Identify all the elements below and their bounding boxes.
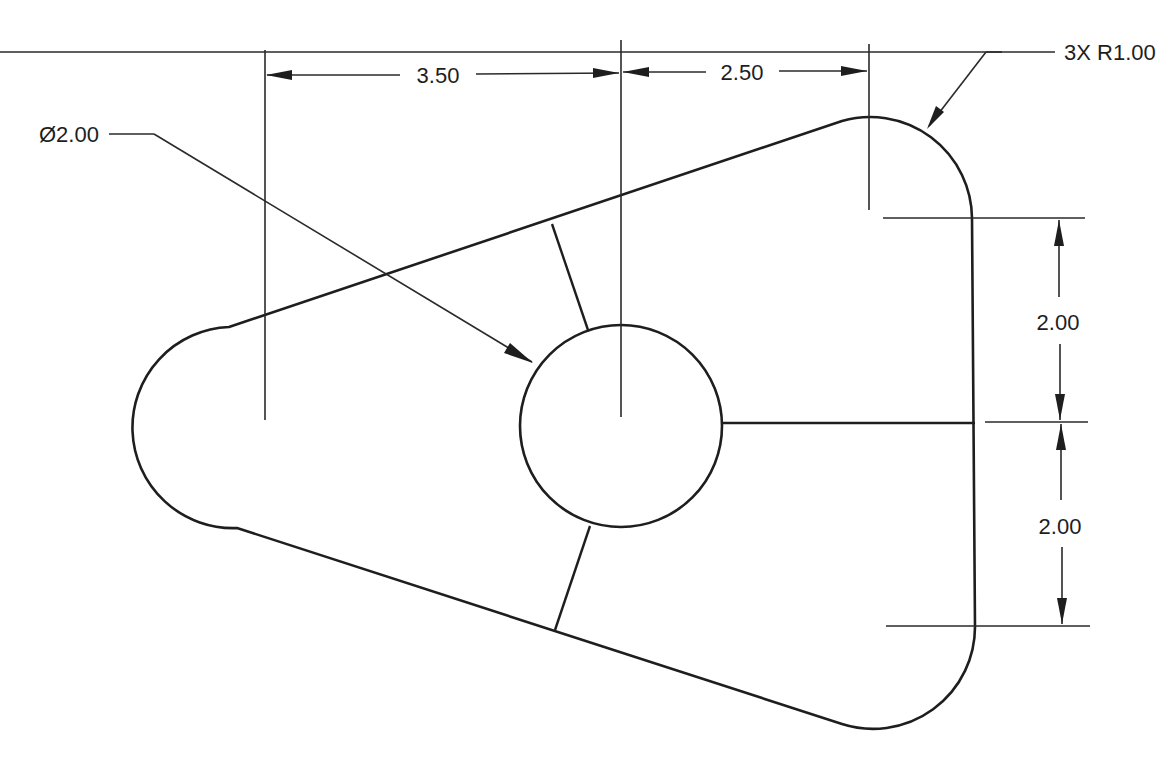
leader-arrowhead <box>504 343 533 363</box>
dimension-label-2-00-lower: 2.00 <box>1039 514 1082 539</box>
leader-hole-diameter: Ø2.00 <box>39 122 533 363</box>
arrowhead-up <box>1056 424 1066 450</box>
arrowhead-left <box>623 67 649 77</box>
arrowhead-left <box>266 70 292 80</box>
dimension-label-3-50: 3.50 <box>417 63 460 88</box>
engineering-drawing: 3.50 2.50 2.00 2.00 Ø2.00 3X R <box>0 0 1172 771</box>
lower-left-web <box>555 526 590 630</box>
dimension-3-50: 3.50 <box>266 63 619 88</box>
arrowhead-up <box>1054 220 1064 246</box>
dimension-2-50: 2.50 <box>623 60 867 85</box>
dimension-2-00-upper: 2.00 <box>1037 220 1080 420</box>
dimension-label-2-50: 2.50 <box>721 60 764 85</box>
arrowhead-right <box>593 68 619 78</box>
dimension-2-00-lower: 2.00 <box>1039 424 1082 624</box>
callout-hole-diameter: Ø2.00 <box>39 122 99 147</box>
arrowhead-right <box>841 66 867 76</box>
dimension-label-2-00-upper: 2.00 <box>1037 310 1080 335</box>
leader-corner-radius: 3X R1.00 <box>0 40 1156 129</box>
callout-corner-radius: 3X R1.00 <box>1064 40 1156 65</box>
arrowhead-down <box>1055 394 1065 420</box>
arrowhead-down <box>1057 598 1067 624</box>
upper-left-web <box>552 224 588 330</box>
